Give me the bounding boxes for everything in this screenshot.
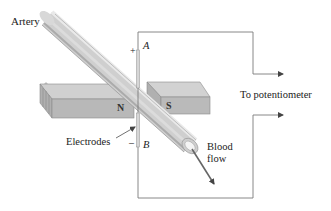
minus-sign: –: [129, 137, 134, 148]
plus-sign: +: [130, 45, 136, 56]
electrodes: [137, 32, 140, 198]
point-a-label: A: [143, 40, 149, 51]
potentiometer-label: To potentiometer: [240, 89, 312, 100]
artery-label: Artery: [11, 16, 40, 27]
point-b-label: B: [143, 139, 149, 150]
upper-wire: [138, 32, 283, 74]
north-pole-label: N: [117, 102, 124, 113]
electrodes-label: Electrodes: [66, 136, 110, 147]
south-pole-label: S: [166, 100, 172, 111]
blood-flow-label-line2: flow: [207, 153, 226, 164]
blood-flow-label-line1: Blood: [207, 141, 233, 152]
